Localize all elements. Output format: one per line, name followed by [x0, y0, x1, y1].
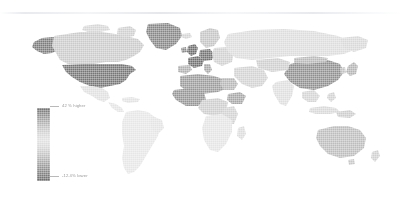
legend-high-entry: 42 % higher — [50, 103, 85, 109]
world-choropleth-figure: 42 % higher -12.4% lower — [0, 0, 402, 199]
legend-color-gradient-bar — [37, 108, 50, 181]
region-southeast-asia — [302, 90, 320, 102]
region-ireland — [181, 47, 187, 53]
scan-artifact-line — [0, 12, 402, 14]
region-italy — [204, 64, 212, 74]
region-greenland — [146, 23, 182, 50]
region-united-states — [62, 64, 136, 88]
region-korea — [340, 67, 346, 74]
legend-low-label: -12.4% lower — [62, 173, 88, 179]
region-russia — [224, 29, 354, 60]
region-southern-africa — [202, 114, 232, 152]
region-tasmania — [348, 159, 355, 165]
region-iceland — [181, 33, 192, 39]
region-scandinavia — [200, 28, 220, 48]
legend-low-tick-icon — [50, 176, 59, 177]
region-philippines — [327, 92, 336, 102]
region-canada — [52, 32, 144, 65]
region-united-kingdom — [187, 44, 198, 56]
region-new-zealand — [371, 150, 380, 162]
legend-high-label: 42 % higher — [62, 103, 85, 109]
map-legend: 42 % higher -12.4% lower — [37, 107, 157, 185]
region-australia — [316, 126, 366, 158]
region-horn-of-africa — [227, 92, 246, 104]
region-madagascar — [237, 126, 246, 140]
region-indonesia — [309, 106, 340, 114]
region-canadian-arctic — [82, 24, 110, 32]
region-india — [272, 80, 294, 106]
region-caribbean — [122, 97, 140, 103]
legend-high-tick-icon — [50, 106, 59, 107]
legend-low-entry: -12.4% lower — [50, 173, 88, 179]
region-japan — [346, 62, 358, 76]
region-mexico — [80, 86, 110, 102]
region-iberia — [178, 65, 192, 74]
